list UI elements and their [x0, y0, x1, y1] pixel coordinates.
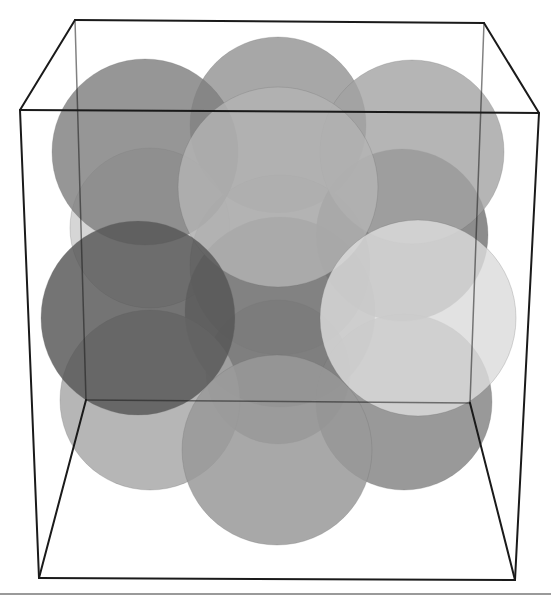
sphere-bottom-front-center [182, 355, 372, 545]
cube-edge [20, 20, 75, 110]
cube-edge [39, 578, 515, 580]
cube-edge [484, 23, 539, 113]
cube-edge [20, 110, 39, 578]
sphere-mid-right-light [320, 220, 516, 416]
bottom-divider [0, 593, 551, 595]
cube-edge [515, 113, 539, 580]
cube-edge [39, 400, 86, 578]
cube-edge [470, 403, 515, 580]
cube-edge [75, 20, 484, 23]
sphere-mid-left-dark [41, 221, 235, 415]
sphere-lattice-render [0, 0, 551, 597]
